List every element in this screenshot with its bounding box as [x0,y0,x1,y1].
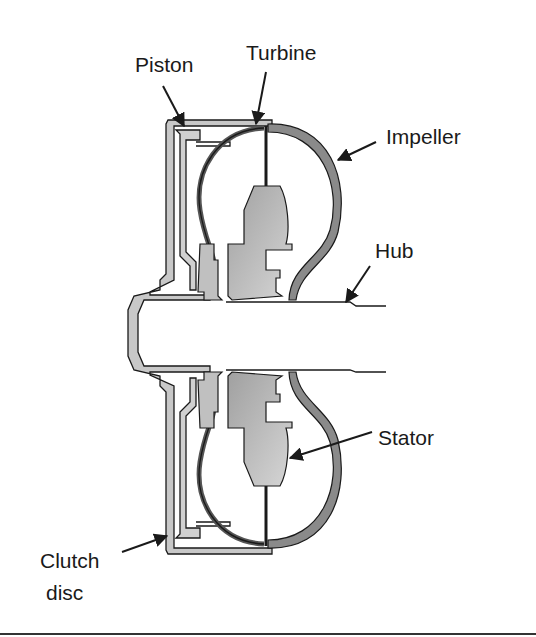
torque-converter-diagram [0,0,536,637]
label-impeller: Impeller [386,124,461,150]
clutch-disc-arrow [122,536,167,552]
turbine-arrow [256,72,266,124]
impeller-arrow [338,142,376,160]
hub-arrow [346,266,370,302]
hub-shaft [226,302,386,372]
label-clutch-disc-line2: disc [46,580,83,606]
bottom-rule [0,633,536,635]
label-piston: Piston [135,52,193,78]
turbine-hub [198,244,222,428]
stator [228,186,292,486]
label-hub: Hub [375,238,414,264]
piston [176,130,230,538]
label-stator: Stator [378,425,434,451]
label-turbine: Turbine [246,40,316,66]
label-clutch-disc-line1: Clutch [40,548,100,574]
